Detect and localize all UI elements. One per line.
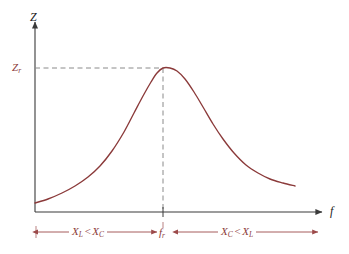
right-rhs: X: [242, 225, 249, 237]
fr-subscript: r: [162, 231, 165, 240]
left-operator: <: [83, 225, 92, 237]
y-axis-label: Z: [30, 11, 37, 23]
plot-canvas: [0, 0, 349, 254]
right-rhs-sub: L: [249, 230, 253, 239]
right-operator: <: [233, 225, 242, 237]
impedance-curve: [35, 67, 295, 203]
right-lhs: X: [221, 225, 228, 237]
left-lhs-sub: L: [79, 230, 83, 239]
left-rhs-sub: C: [99, 230, 104, 239]
x-axis-label: f: [330, 205, 333, 217]
left-lhs: X: [72, 225, 79, 237]
right-region-label: XC<XL: [218, 226, 256, 237]
zr-subscript: r: [18, 66, 21, 75]
resonance-curve-figure: Z f Zr fr XL<XC XC<XL: [0, 0, 349, 254]
left-region-label: XL<XC: [69, 226, 107, 237]
right-lhs-sub: C: [228, 230, 233, 239]
fr-tick-label: fr: [159, 227, 165, 238]
zr-tick-label: Zr: [12, 62, 21, 73]
